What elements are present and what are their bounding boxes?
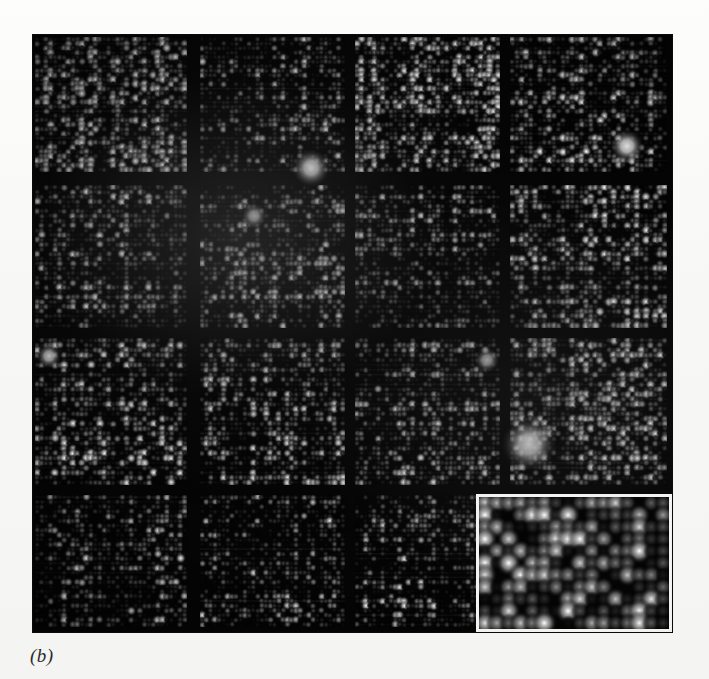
magnified-inset <box>476 494 672 632</box>
figure-root: (b) <box>0 0 709 679</box>
figure-caption-label: (b) <box>30 645 54 667</box>
inset-canvas <box>479 497 669 629</box>
